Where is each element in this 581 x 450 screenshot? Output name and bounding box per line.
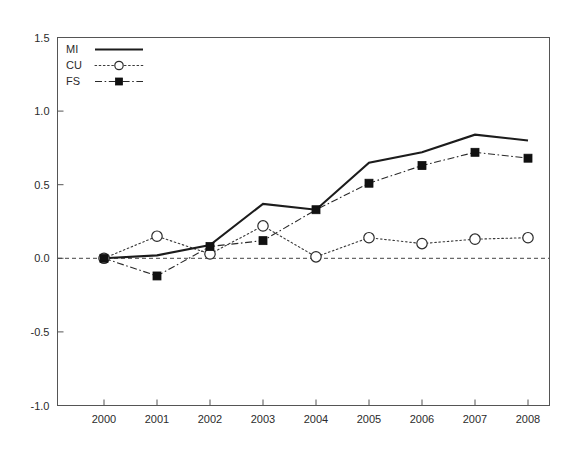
data-point-fs: [259, 237, 267, 245]
data-point-cu: [417, 238, 427, 248]
y-tick-label: 1.0: [34, 105, 49, 117]
x-tick-label: 2008: [516, 413, 540, 425]
y-tick-label: 0.5: [34, 179, 49, 191]
data-point-fs: [153, 272, 161, 280]
x-tick-label: 2001: [145, 413, 169, 425]
x-tick-label: 2007: [463, 413, 487, 425]
legend-label-cu: CU: [66, 59, 82, 71]
y-tick-label: -1.0: [31, 400, 50, 412]
y-tick-label: 0.0: [34, 252, 49, 264]
data-point-cu: [523, 232, 533, 242]
line-chart-figure: 1.51.00.50.0-0.5-1.0 2000200120022003200…: [0, 0, 581, 450]
data-point-cu: [152, 231, 162, 241]
figure-background: [0, 0, 581, 450]
x-tick-label: 2000: [92, 413, 116, 425]
x-tick-label: 2004: [304, 413, 328, 425]
legend-label-mi: MI: [66, 43, 78, 55]
data-point-fs: [471, 148, 479, 156]
data-point-fs: [365, 179, 373, 187]
x-tick-label: 2005: [357, 413, 381, 425]
data-point-cu: [311, 252, 321, 262]
legend-label-fs: FS: [66, 75, 80, 87]
legend-marker-fs: [116, 78, 123, 85]
data-point-cu: [364, 232, 374, 242]
x-tick-label: 2002: [198, 413, 222, 425]
y-tick-label: -0.5: [31, 326, 50, 338]
data-point-fs: [418, 162, 426, 170]
legend-marker-cu: [115, 61, 123, 69]
x-tick-label: 2003: [251, 413, 275, 425]
data-point-fs: [206, 243, 214, 251]
data-point-cu: [258, 221, 268, 231]
y-tick-label: 1.5: [34, 32, 49, 44]
x-axis-labels: 200020012002200320042005200620072008: [92, 413, 540, 425]
data-point-fs: [524, 154, 532, 162]
x-tick-label: 2006: [410, 413, 434, 425]
data-point-fs: [312, 206, 320, 214]
data-point-cu: [470, 234, 480, 244]
data-point-fs: [100, 254, 108, 262]
